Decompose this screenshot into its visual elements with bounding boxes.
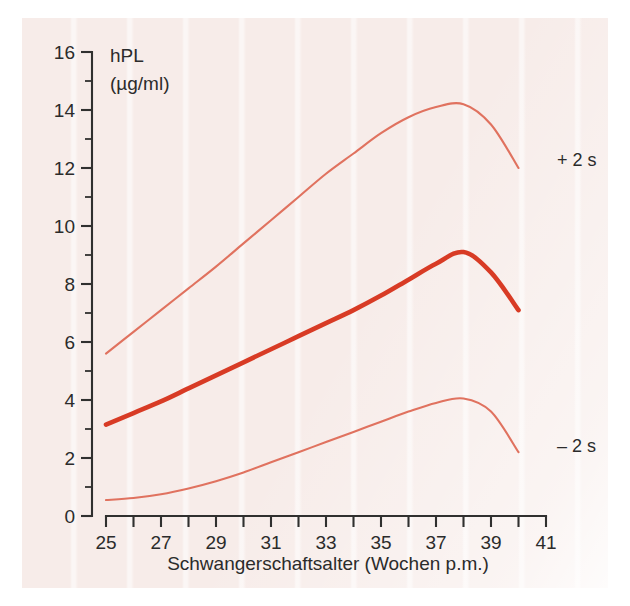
annotation-minus-2s: – 2 s <box>557 436 596 456</box>
annotation-plus-2s: + 2 s <box>557 150 597 170</box>
figure-root: 0246810121416 252729313335373941 hPL (µg… <box>0 0 630 606</box>
series-line-plus-2s <box>106 103 519 353</box>
x-axis-title: Schwangerschaftsalter (Wochen p.m.) <box>167 553 489 574</box>
x-tick-label: 27 <box>150 532 171 553</box>
x-tick-group <box>106 516 546 527</box>
series-group <box>106 103 519 500</box>
y-axis-title: hPL <box>110 45 144 66</box>
x-tick-label: 31 <box>260 532 281 553</box>
y-tick-label: 10 <box>54 216 75 237</box>
x-axis: 252729313335373941 <box>95 516 556 553</box>
y-tick-label-group: 0246810121416 <box>54 42 76 527</box>
x-tick-label: 33 <box>315 532 336 553</box>
y-axis: 0246810121416 <box>54 42 92 527</box>
y-tick-label: 6 <box>64 332 75 353</box>
hpl-line-chart: 0246810121416 252729313335373941 hPL (µg… <box>0 0 630 606</box>
x-tick-label: 29 <box>205 532 226 553</box>
y-tick-label: 4 <box>64 390 75 411</box>
y-tick-group <box>81 52 92 516</box>
y-tick-label: 2 <box>64 448 75 469</box>
x-tick-label-group: 252729313335373941 <box>95 532 556 553</box>
x-tick-label: 35 <box>370 532 391 553</box>
x-tick-label: 37 <box>425 532 446 553</box>
y-axis-unit: (µg/ml) <box>110 73 170 94</box>
x-tick-label: 41 <box>535 532 556 553</box>
y-tick-label: 8 <box>64 274 75 295</box>
series-line-minus-2s <box>106 398 519 500</box>
y-tick-label: 0 <box>64 506 75 527</box>
x-tick-label: 39 <box>480 532 501 553</box>
y-tick-label: 12 <box>54 158 75 179</box>
x-tick-label: 25 <box>95 532 116 553</box>
y-tick-label: 14 <box>54 100 76 121</box>
y-tick-label: 16 <box>54 42 75 63</box>
